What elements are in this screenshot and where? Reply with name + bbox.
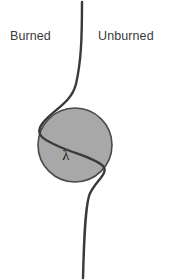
label-unburned: Unburned (98, 29, 154, 43)
eddy-circle (38, 108, 112, 182)
flame-front-figure: Burned Unburned λ (0, 0, 174, 280)
label-lambda-scale: λ (62, 147, 70, 163)
figure-canvas: Burned Unburned λ (0, 0, 174, 280)
label-burned: Burned (10, 29, 51, 43)
